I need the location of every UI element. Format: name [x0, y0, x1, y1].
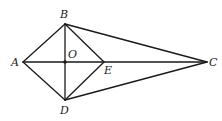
- diagram-svg: ABCDEO: [0, 0, 222, 121]
- label-d: D: [59, 104, 69, 117]
- label-e: E: [103, 64, 112, 77]
- segment-ab: [23, 24, 65, 62]
- segment-bc: [65, 24, 207, 62]
- point-o-dot: [63, 60, 67, 64]
- geometry-diagram: ABCDEO: [0, 0, 222, 121]
- label-c: C: [209, 56, 218, 69]
- segments-group: [23, 24, 207, 100]
- label-b: B: [59, 8, 68, 21]
- segment-dc: [65, 62, 207, 100]
- points-group: [63, 60, 67, 64]
- segment-ad: [23, 62, 65, 100]
- label-o: O: [68, 48, 77, 61]
- label-a: A: [10, 56, 19, 69]
